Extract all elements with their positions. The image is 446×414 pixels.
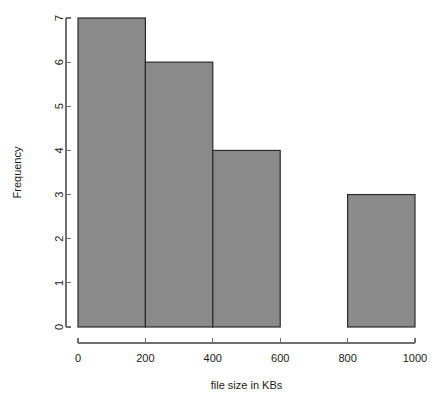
y-tick-label: 3: [53, 192, 65, 198]
x-tick-label: 0: [75, 352, 81, 364]
x-tick-label: 600: [271, 352, 289, 364]
histogram-bar: [213, 150, 280, 327]
y-axis-title: Frequency: [11, 146, 23, 198]
x-tick-label: 800: [338, 352, 356, 364]
x-axis-title: file size in KBs: [211, 379, 283, 391]
histogram-bar: [78, 18, 145, 327]
histogram-figure: 01234567 02004006008001000 Frequency fil…: [0, 0, 446, 414]
histogram-plot: 01234567 02004006008001000 Frequency fil…: [0, 0, 446, 414]
y-tick-label: 5: [53, 103, 65, 109]
x-tick-label: 200: [136, 352, 154, 364]
histogram-bar: [145, 62, 212, 327]
histogram-bar: [348, 195, 415, 327]
y-tick-label: 7: [53, 15, 65, 21]
y-tick-label: 6: [53, 59, 65, 65]
y-tick-label: 2: [53, 236, 65, 242]
x-tick-label: 400: [204, 352, 222, 364]
y-tick-label: 1: [53, 280, 65, 286]
x-tick-label: 1000: [403, 352, 427, 364]
y-tick-label: 4: [53, 147, 65, 153]
y-tick-label: 0: [53, 324, 65, 330]
